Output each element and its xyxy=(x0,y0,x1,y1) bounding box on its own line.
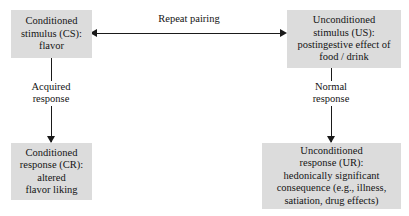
node-unconditioned-stimulus-text: Unconditioned stimulus (US): postingesti… xyxy=(290,14,398,64)
node-unconditioned-response: Unconditioned response (UR): hedonically… xyxy=(262,143,401,209)
conditioning-diagram: Repeat pairing Acquired response Normal … xyxy=(0,0,409,216)
acquired-response-label: Acquired response xyxy=(21,81,81,106)
arrow-right-icon xyxy=(280,29,287,37)
node-conditioned-response-text: Conditioned response (CR): altered flavo… xyxy=(14,147,89,197)
arrow-down-icon xyxy=(47,136,55,143)
node-unconditioned-response-text: Unconditioned response (UR): hedonically… xyxy=(265,145,398,207)
node-conditioned-stimulus-text: Conditioned stimulus (CS): flavor xyxy=(14,15,89,52)
node-conditioned-response: Conditioned response (CR): altered flavo… xyxy=(11,143,92,200)
normal-response-label: Normal response xyxy=(301,81,361,106)
node-conditioned-stimulus: Conditioned stimulus (CS): flavor xyxy=(11,10,92,58)
arrow-down-icon xyxy=(327,136,335,143)
repeat-pairing-line xyxy=(97,33,281,34)
repeat-pairing-label: Repeat pairing xyxy=(129,13,249,25)
node-unconditioned-stimulus: Unconditioned stimulus (US): postingesti… xyxy=(287,10,401,68)
